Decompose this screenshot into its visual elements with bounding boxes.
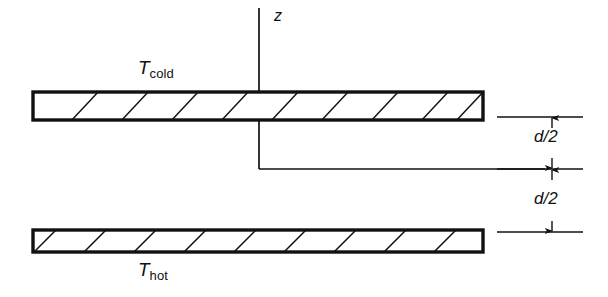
lower-gap-dimension-label: d/2 xyxy=(534,190,558,207)
cold-plate-subscript: cold xyxy=(150,66,174,81)
hot-plate-subscript: hot xyxy=(150,268,168,283)
hot-plate-label: Thot xyxy=(138,260,168,282)
cold-plate-symbol: T xyxy=(138,57,150,78)
hot-plate xyxy=(32,228,483,254)
cold-plate-label: Tcold xyxy=(138,58,174,80)
hot-plate-symbol: T xyxy=(138,259,150,280)
z-axis-label: z xyxy=(274,8,282,24)
cold-plate-body xyxy=(33,92,483,120)
upper-gap-dimension-label: d/2 xyxy=(534,128,558,145)
thermal-plates-diagram: z Tcold Thot d/2 d/2 xyxy=(0,0,608,297)
hot-plate-body xyxy=(33,230,483,252)
cold-plate xyxy=(33,90,485,122)
diagram-canvas xyxy=(0,0,608,297)
